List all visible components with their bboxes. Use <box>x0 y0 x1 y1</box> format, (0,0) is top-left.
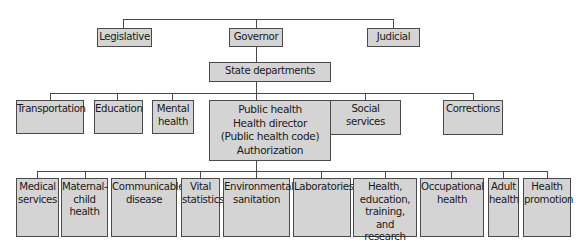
box-corrections: Corrections <box>443 100 503 135</box>
box-public-health: Public health Health director (Public he… <box>209 100 331 161</box>
connector-departments <box>50 93 474 94</box>
box-vital-statistics: Vital statistics <box>181 178 220 237</box>
connector-branches <box>123 19 394 20</box>
box-laboratories: Laboratories <box>293 178 351 237</box>
box-governor: Governor <box>229 28 283 47</box>
box-occupational-health: Occupational health <box>420 178 484 237</box>
connector-governor-state <box>256 47 257 63</box>
box-transportation: Transportation <box>16 100 84 134</box>
connector-divisions <box>37 171 548 172</box>
connector-state-departments <box>256 82 257 101</box>
box-maternal-child-health: Maternal- child health <box>61 178 108 237</box>
box-communicable-disease: Communicable disease <box>111 178 177 237</box>
box-adult-health: Adult health <box>488 178 519 237</box>
box-social-services: Social services <box>330 100 401 135</box>
box-judicial: Judicial <box>367 28 420 47</box>
org-chart: Legislative Governor Judicial State depa… <box>0 0 588 252</box>
box-health-education-training-research: Health, education, training, and researc… <box>353 178 417 237</box>
box-health-promotion: Health promotion <box>523 178 571 237</box>
box-mental-health: Mental health <box>152 100 194 134</box>
box-education: Education <box>94 100 143 134</box>
box-state-departments: State departments <box>209 62 331 82</box>
connector-public-health <box>256 161 257 179</box>
box-environmental-sanitation: Environmental sanitation <box>223 178 290 237</box>
box-medical-services: Medical services <box>16 178 59 237</box>
box-legislative: Legislative <box>97 28 152 47</box>
